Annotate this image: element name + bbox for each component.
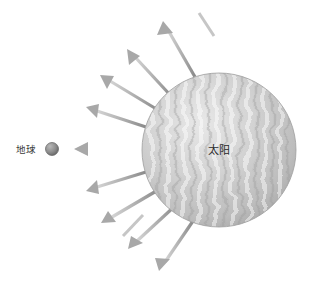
ray-up-right-outer [199,13,214,36]
earth-label: 地球 [16,144,36,155]
ray-up [127,49,172,97]
arrowhead [74,142,88,156]
ray-down-left-outer [123,215,143,236]
ray-up-left [86,104,146,127]
ray-up-left-steep [100,75,158,110]
sun: 太阳 [142,68,296,232]
ray-up-right [157,21,195,77]
diagram-canvas: 太阳 地球 [0,0,316,298]
arrowhead [86,180,99,194]
ray-left-to-earth [74,142,141,156]
earth: 地球 [16,143,59,156]
arrowhead [157,21,173,35]
ray-down [128,205,176,249]
ray-down-left [86,172,146,194]
arrowhead [155,258,170,271]
ray-down-left-steep [101,190,158,223]
ray-down-right [155,221,193,271]
solar-radiation-diagram: 太阳 地球 [0,0,316,298]
arrowhead [86,104,99,118]
sun-label: 太阳 [208,144,230,156]
